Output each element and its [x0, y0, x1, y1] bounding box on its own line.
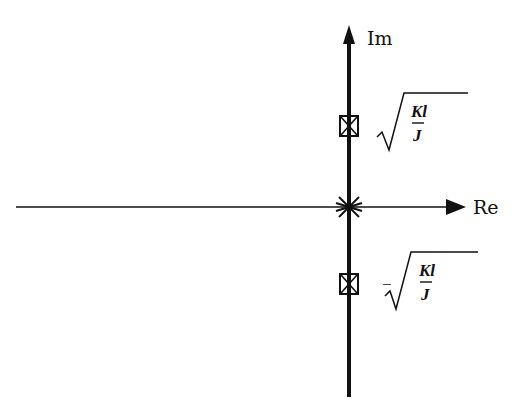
imaginary-axis: Im: [343, 25, 393, 397]
upper-pole-zero-icon: [340, 116, 358, 136]
lower-value-label: − Kl J: [382, 252, 478, 309]
lower-denominator: J: [420, 285, 430, 304]
root-locus-diagram: Re Im Kl J − Kl J: [0, 0, 516, 416]
upper-value-label: Kl J: [377, 93, 468, 150]
imaginary-axis-label: Im: [367, 27, 393, 49]
lower-numerator: Kl: [418, 261, 435, 280]
upper-denominator: J: [412, 126, 422, 145]
real-axis-arrow-icon: [446, 199, 466, 215]
real-axis-label: Re: [473, 196, 499, 218]
real-axis: Re: [16, 196, 499, 218]
upper-numerator: Kl: [410, 102, 427, 121]
imaginary-axis-arrow-icon: [343, 25, 355, 44]
lower-pole-zero-icon: [340, 274, 358, 294]
